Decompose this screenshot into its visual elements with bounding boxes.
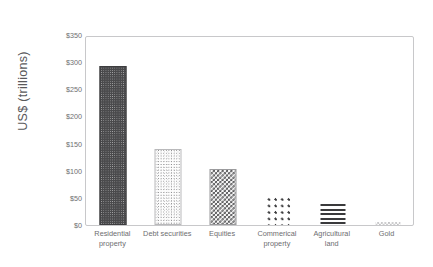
bar-slot xyxy=(86,37,141,225)
y-tick-label: $0 xyxy=(48,222,82,229)
bar-slot xyxy=(141,37,196,225)
x-axis-tick-labels: ResidentialpropertyDebt securitiesEquiti… xyxy=(85,229,414,263)
y-tick-label: $250 xyxy=(48,87,82,94)
y-axis-tick-labels: $0$50$100$150$200$250$300$350 xyxy=(48,0,82,267)
x-tick-label-line: property xyxy=(79,239,145,249)
bars-layer xyxy=(86,37,413,225)
y-axis-title: US$ (trillions) xyxy=(16,26,30,156)
bar[interactable] xyxy=(100,66,127,225)
bar-slot xyxy=(196,37,251,225)
bar-chart-figure: US$ (trillions) $0$50$100$150$200$250$30… xyxy=(0,0,433,267)
bar[interactable] xyxy=(155,149,182,225)
y-tick-label: $350 xyxy=(48,32,82,39)
bar-slot xyxy=(360,37,415,225)
bar-slot xyxy=(305,37,360,225)
y-tick-label: $100 xyxy=(48,168,82,175)
y-tick-label: $150 xyxy=(48,141,82,148)
y-tick-label: $200 xyxy=(48,114,82,121)
y-tick-label: $300 xyxy=(48,60,82,67)
x-tick-label-line: Gold xyxy=(354,229,420,239)
bar[interactable] xyxy=(210,169,237,225)
bar[interactable] xyxy=(320,204,345,225)
x-tick-label: Gold xyxy=(354,229,420,239)
bar[interactable] xyxy=(375,222,400,225)
bar-slot xyxy=(251,37,306,225)
bar[interactable] xyxy=(265,196,290,225)
x-tick-label-line: land xyxy=(299,239,365,249)
y-tick-label: $50 xyxy=(48,195,82,202)
plot-area xyxy=(85,36,414,226)
